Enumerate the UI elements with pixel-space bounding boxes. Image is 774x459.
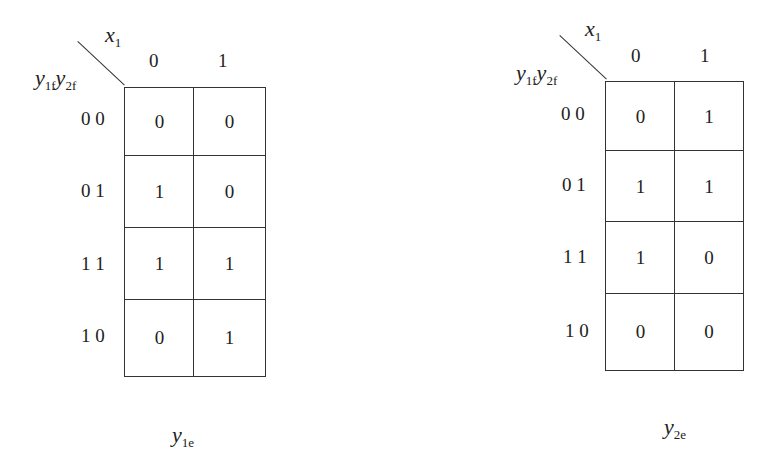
cell-10-1: 1 bbox=[194, 300, 265, 376]
row-label-01: 0 1 bbox=[81, 180, 105, 202]
column-variable-label: x1 bbox=[105, 22, 121, 51]
map-caption: y1e bbox=[172, 422, 194, 451]
cell-11-0: 1 bbox=[125, 228, 194, 300]
column-label-0: 0 bbox=[631, 45, 641, 67]
cell-01-1: 1 bbox=[675, 151, 743, 222]
row-label-10: 1 0 bbox=[565, 320, 589, 342]
row-label-11: 1 1 bbox=[81, 253, 105, 275]
kmap-grid: 0 0 1 0 1 1 0 1 bbox=[124, 87, 266, 377]
kmap-grid: 0 1 1 1 1 0 0 0 bbox=[605, 81, 744, 371]
cell-10-0: 0 bbox=[606, 294, 675, 370]
cell-00-1: 0 bbox=[194, 88, 265, 156]
cell-10-0: 0 bbox=[125, 300, 194, 376]
cell-00-0: 0 bbox=[125, 88, 194, 156]
cell-10-1: 0 bbox=[675, 294, 743, 370]
row-label-10: 1 0 bbox=[81, 325, 105, 347]
row-variables-label: y1fy2f bbox=[35, 65, 76, 94]
cell-00-1: 1 bbox=[675, 82, 743, 151]
cell-11-0: 1 bbox=[606, 222, 675, 294]
column-variable-label: x1 bbox=[585, 16, 601, 45]
row-label-00: 0 0 bbox=[561, 103, 585, 125]
column-label-1: 1 bbox=[700, 45, 710, 67]
cell-01-0: 1 bbox=[125, 156, 194, 228]
cell-11-1: 0 bbox=[675, 222, 743, 294]
column-label-0: 0 bbox=[149, 50, 159, 72]
map-caption: y2e bbox=[664, 414, 686, 443]
column-label-1: 1 bbox=[218, 50, 228, 72]
row-label-11: 1 1 bbox=[563, 246, 587, 268]
cell-11-1: 1 bbox=[194, 228, 265, 300]
row-label-01: 0 1 bbox=[562, 174, 586, 196]
cell-01-0: 1 bbox=[606, 151, 675, 222]
cell-01-1: 0 bbox=[194, 156, 265, 228]
row-variables-label: y1fy2f bbox=[516, 60, 557, 89]
row-label-00: 0 0 bbox=[81, 108, 105, 130]
cell-00-0: 0 bbox=[606, 82, 675, 151]
